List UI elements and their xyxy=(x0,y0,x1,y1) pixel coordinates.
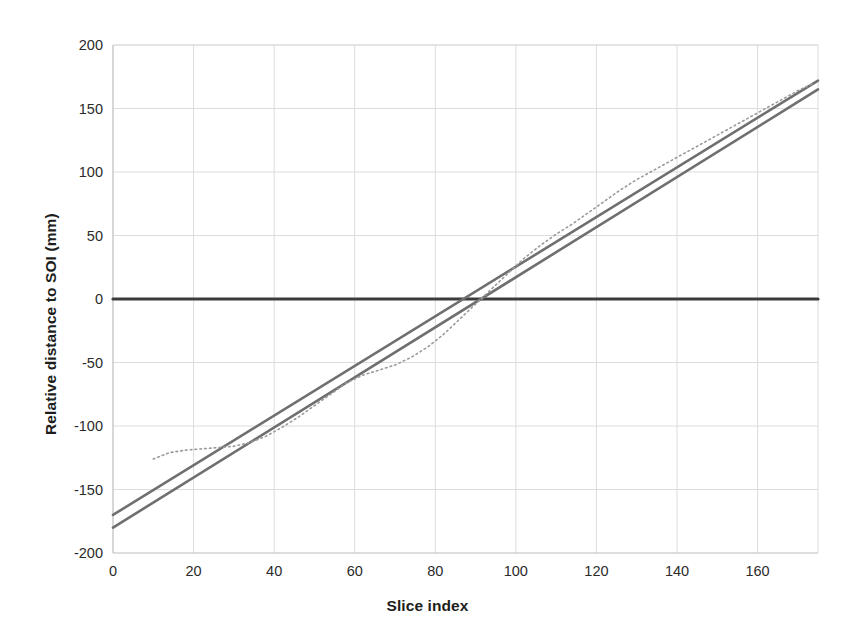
plot-area xyxy=(0,0,855,637)
data-series-layer xyxy=(113,81,818,528)
series-measured-distance xyxy=(153,83,814,459)
chart-figure: Relative distance to SOI (mm) Slice inde… xyxy=(0,0,855,637)
series-lower-fit-line xyxy=(113,89,818,527)
